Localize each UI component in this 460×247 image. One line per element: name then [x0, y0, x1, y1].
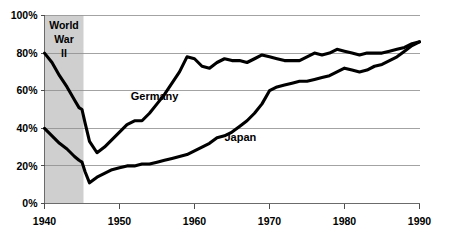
chart-container: 0%20%40%60%80%100% 194019501960197019801… [0, 0, 460, 247]
series-line-japan [45, 42, 420, 183]
y-tick-label-40: 40% [16, 122, 38, 134]
war-band-line-2: War [54, 33, 73, 45]
data-series-lines [45, 42, 420, 183]
x-tick-label-1950: 1950 [108, 215, 132, 227]
y-tick-label-20: 20% [16, 160, 38, 172]
x-tick-label-1980: 1980 [333, 215, 357, 227]
x-tick-label-1990: 1990 [408, 215, 432, 227]
line-chart: 0%20%40%60%80%100% 194019501960197019801… [0, 0, 460, 247]
x-tick-label-1960: 1960 [183, 215, 207, 227]
series-label-japan: Japan [225, 131, 257, 143]
y-tick-label-100: 100% [11, 9, 39, 21]
x-tick-label-1940: 1940 [33, 215, 57, 227]
x-axis-tickmarks [45, 204, 420, 209]
series-label-germany: Germany [131, 90, 180, 102]
war-band-line-1: World [49, 19, 79, 31]
x-tick-label-1970: 1970 [258, 215, 282, 227]
x-axis-tick-labels: 194019501960197019801990 [33, 215, 432, 227]
y-tick-label-60: 60% [16, 84, 38, 96]
war-band-line-3: II [61, 47, 67, 59]
y-tick-label-80: 80% [16, 47, 38, 59]
series-inline-labels: GermanyJapan [131, 90, 257, 143]
y-tick-label-0: 0% [22, 197, 38, 209]
y-axis-tick-labels: 0%20%40%60%80%100% [11, 9, 45, 209]
